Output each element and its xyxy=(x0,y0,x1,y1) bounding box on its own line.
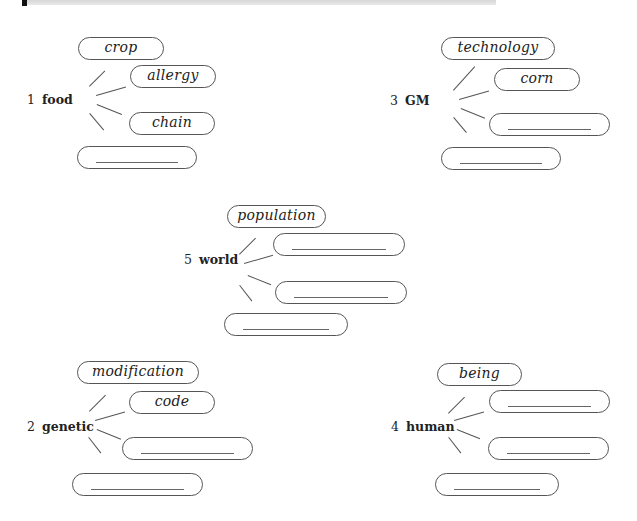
keyword: food xyxy=(42,92,73,107)
connector-line xyxy=(88,437,101,453)
keyword-label: 1food xyxy=(27,92,73,107)
connector-line xyxy=(239,285,252,301)
word-pill: modification xyxy=(77,361,199,384)
answer-line xyxy=(91,489,184,490)
connector-line xyxy=(448,437,461,453)
word-pill: technology xyxy=(441,37,555,60)
blank-answer-pill[interactable] xyxy=(72,473,203,496)
keyword-label: 3GM xyxy=(390,93,429,108)
blank-answer-pill[interactable] xyxy=(441,147,561,170)
keyword: GM xyxy=(405,93,430,108)
item-number: 2 xyxy=(27,419,35,434)
connector-line xyxy=(89,395,106,412)
connector-line xyxy=(454,411,484,421)
keyword-label: 5world xyxy=(184,252,238,267)
word-pill: chain xyxy=(129,112,215,135)
answer-line xyxy=(508,406,591,407)
section-header-bar xyxy=(22,0,496,5)
keyword: human xyxy=(406,419,455,434)
connector-line xyxy=(453,66,475,90)
blank-answer-pill[interactable] xyxy=(489,390,610,413)
answer-line xyxy=(294,297,388,298)
keyword: world xyxy=(199,252,238,267)
connector-line xyxy=(95,411,125,421)
connector-line xyxy=(457,429,481,439)
connector-line xyxy=(96,86,126,96)
connector-line xyxy=(89,70,105,86)
blank-answer-pill[interactable] xyxy=(122,437,253,460)
word-pill: allergy xyxy=(130,65,216,88)
connector-line xyxy=(97,104,122,115)
connector-line xyxy=(459,90,489,100)
keyword: genetic xyxy=(42,419,94,434)
connector-line xyxy=(453,117,467,133)
blank-answer-pill[interactable] xyxy=(488,437,609,460)
answer-line xyxy=(454,489,540,490)
word-pill: being xyxy=(437,363,522,386)
section-marker xyxy=(22,0,27,6)
answer-line xyxy=(243,329,329,330)
connector-line xyxy=(448,397,465,414)
connector-line xyxy=(89,113,104,130)
answer-line xyxy=(141,453,234,454)
item-number: 5 xyxy=(184,252,192,267)
item-number: 4 xyxy=(391,419,399,434)
answer-line xyxy=(460,163,542,164)
blank-answer-pill[interactable] xyxy=(224,313,348,336)
answer-line xyxy=(508,129,591,130)
connector-line xyxy=(461,108,485,119)
answer-line xyxy=(96,162,178,163)
word-pill: code xyxy=(129,391,215,414)
connector-line xyxy=(248,275,272,285)
blank-answer-pill[interactable] xyxy=(273,233,405,256)
answer-line xyxy=(292,249,386,250)
item-number: 1 xyxy=(27,92,35,107)
item-number: 3 xyxy=(390,93,398,108)
connector-line xyxy=(239,238,256,255)
blank-answer-pill[interactable] xyxy=(435,473,559,496)
connector-line xyxy=(244,255,273,264)
answer-line xyxy=(507,453,590,454)
keyword-label: 4human xyxy=(391,419,455,434)
word-pill: population xyxy=(227,205,326,228)
connector-line xyxy=(97,429,121,440)
blank-answer-pill[interactable] xyxy=(77,146,197,169)
blank-answer-pill[interactable] xyxy=(275,281,407,304)
word-pill: corn xyxy=(494,68,580,91)
keyword-label: 2genetic xyxy=(27,419,94,434)
blank-answer-pill[interactable] xyxy=(489,113,610,136)
word-pill: crop xyxy=(78,37,164,60)
